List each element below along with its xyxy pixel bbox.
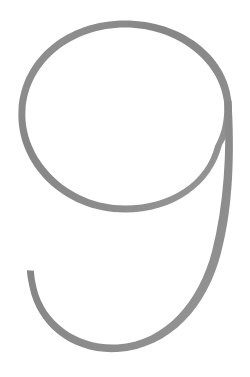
numeral-nine-glyph: Large outlined numeral nine [0, 0, 250, 377]
background-rect [0, 0, 250, 377]
image-canvas: Large outlined numeral nine [0, 0, 250, 377]
